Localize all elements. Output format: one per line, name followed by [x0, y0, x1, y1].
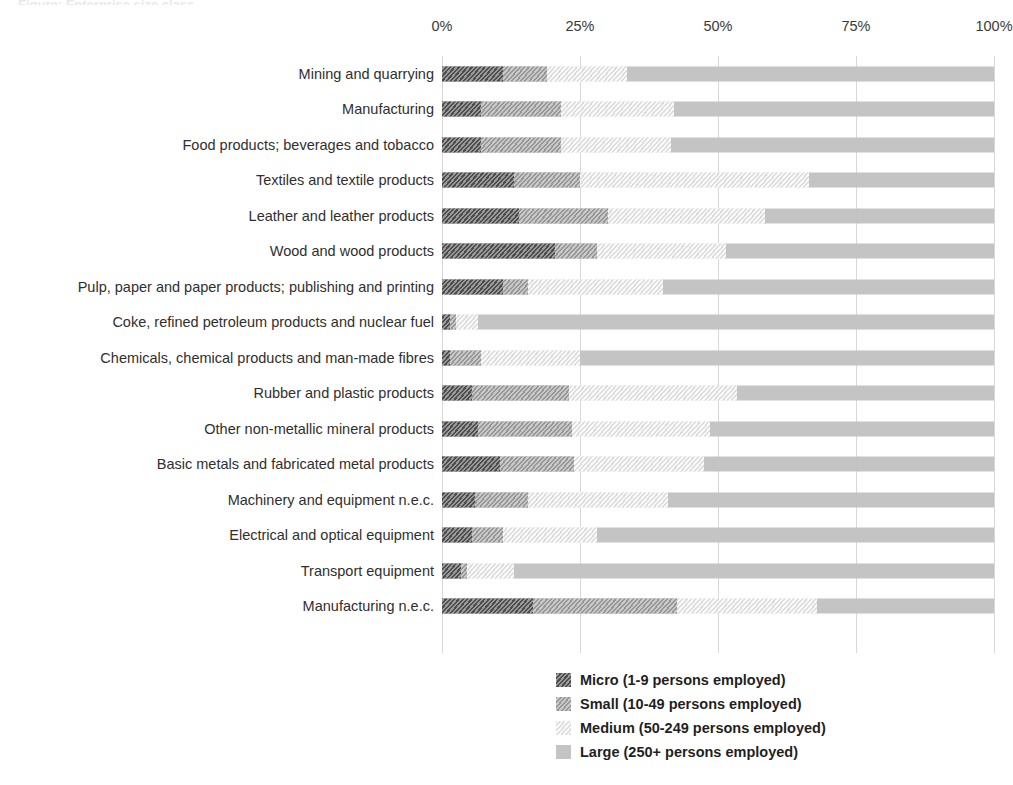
category-label: Food products; beverages and tobacco [183, 137, 435, 153]
bar-segment-micro [442, 528, 472, 543]
bar-segment-small [500, 457, 575, 472]
chart-row: Chemicals, chemical products and man-mad… [442, 340, 994, 376]
bar-segment-micro [442, 137, 481, 152]
stacked-bar [442, 66, 994, 81]
legend-item-small[interactable]: Small (10-49 persons employed) [556, 692, 976, 716]
category-label: Textiles and textile products [256, 172, 434, 188]
stacked-bar [442, 350, 994, 365]
bar-segment-micro [442, 563, 461, 578]
bar-segment-large [737, 386, 994, 401]
chart-row: Coke, refined petroleum products and nuc… [442, 305, 994, 341]
bar-segment-medium [547, 66, 627, 81]
bar-segment-small [481, 137, 561, 152]
bar-segment-large [580, 350, 994, 365]
bar-segment-micro [442, 386, 472, 401]
legend-swatch-medium-icon [556, 721, 571, 735]
bar-segment-medium [456, 315, 478, 330]
category-label: Pulp, paper and paper products; publishi… [78, 279, 434, 295]
bar-segment-large [627, 66, 994, 81]
chart-plot-area: Mining and quarryingManufacturingFood pr… [442, 56, 994, 653]
bar-segment-medium [574, 457, 704, 472]
x-axis-tick-0: 0% [432, 18, 453, 34]
x-axis-tick-2: 50% [703, 18, 732, 34]
bar-segment-large [765, 208, 994, 223]
chart-row: Transport equipment [442, 553, 994, 589]
bar-segment-large [663, 279, 994, 294]
category-label: Manufacturing [342, 101, 434, 117]
chart-row: Textiles and textile products [442, 163, 994, 199]
category-label: Wood and wood products [270, 243, 434, 259]
chart-row: Mining and quarrying [442, 56, 994, 92]
bar-segment-medium [503, 528, 597, 543]
bar-segment-small [503, 66, 547, 81]
bar-segment-medium [597, 244, 727, 259]
bar-segment-medium [677, 599, 818, 614]
stacked-bar [442, 244, 994, 259]
chart-row: Manufacturing n.e.c. [442, 589, 994, 625]
bar-segment-large [817, 599, 994, 614]
cropped-title-sliver: Figure: Enterprise size class [18, 0, 248, 5]
bar-segment-small [555, 244, 596, 259]
x-axis-tick-4: 100% [975, 18, 1012, 34]
bar-segment-small [478, 421, 572, 436]
stacked-bar [442, 457, 994, 472]
bar-segment-large [809, 173, 994, 188]
bar-segment-medium [572, 421, 710, 436]
bar-segment-micro [442, 492, 475, 507]
chart-legend: Micro (1-9 persons employed)Small (10-49… [556, 668, 976, 764]
chart-row: Other non-metallic mineral products [442, 411, 994, 447]
bar-segment-medium [561, 137, 671, 152]
chart-row: Rubber and plastic products [442, 376, 994, 412]
bar-segment-small [475, 492, 527, 507]
bar-segment-medium [528, 279, 663, 294]
category-label: Basic metals and fabricated metal produc… [157, 456, 434, 472]
bar-segment-medium [569, 386, 737, 401]
legend-item-medium[interactable]: Medium (50-249 persons employed) [556, 716, 976, 740]
category-label: Rubber and plastic products [253, 385, 434, 401]
bar-segment-medium [467, 563, 514, 578]
chart-row: Pulp, paper and paper products; publishi… [442, 269, 994, 305]
bar-segment-medium [481, 350, 580, 365]
category-label: Manufacturing n.e.c. [303, 598, 434, 614]
legend-label: Small (10-49 persons employed) [580, 696, 802, 712]
bar-segment-micro [442, 66, 503, 81]
legend-label: Micro (1-9 persons employed) [580, 672, 785, 688]
bar-segment-micro [442, 208, 519, 223]
bar-segment-small [472, 528, 502, 543]
bar-segment-micro [442, 457, 500, 472]
bar-segment-small [450, 350, 480, 365]
bar-segment-micro [442, 279, 503, 294]
category-label: Other non-metallic mineral products [204, 421, 434, 437]
stacked-bar [442, 208, 994, 223]
bar-segment-micro [442, 421, 478, 436]
chart-row: Machinery and equipment n.e.c. [442, 482, 994, 518]
bar-segment-large [514, 563, 994, 578]
bar-segment-medium [580, 173, 809, 188]
stacked-bar [442, 421, 994, 436]
chart-row: Basic metals and fabricated metal produc… [442, 447, 994, 483]
category-label: Chemicals, chemical products and man-mad… [100, 350, 434, 366]
bar-segment-large [674, 102, 994, 117]
bar-segment-micro [442, 350, 450, 365]
category-label: Transport equipment [301, 563, 434, 579]
legend-item-micro[interactable]: Micro (1-9 persons employed) [556, 668, 976, 692]
chart-row: Wood and wood products [442, 234, 994, 270]
category-label: Coke, refined petroleum products and nuc… [112, 314, 434, 330]
legend-item-large[interactable]: Large (250+ persons employed) [556, 740, 976, 764]
chart-row: Leather and leather products [442, 198, 994, 234]
stacked-bar [442, 528, 994, 543]
bar-segment-small [514, 173, 580, 188]
chart-row: Food products; beverages and tobacco [442, 127, 994, 163]
category-label: Electrical and optical equipment [229, 527, 434, 543]
bar-segment-small [533, 599, 677, 614]
gridline-100 [994, 56, 995, 653]
stacked-bar [442, 563, 994, 578]
bar-segment-medium [528, 492, 669, 507]
bar-segment-large [704, 457, 994, 472]
bar-segment-micro [442, 244, 555, 259]
stacked-bar [442, 315, 994, 330]
chart-row: Electrical and optical equipment [442, 518, 994, 554]
stacked-bar [442, 102, 994, 117]
legend-label: Large (250+ persons employed) [580, 744, 798, 760]
bar-segment-large [597, 528, 994, 543]
